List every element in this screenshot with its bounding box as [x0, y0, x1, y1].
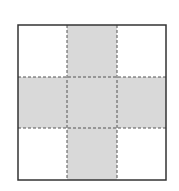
shaded-cell	[67, 77, 117, 128]
empty-cell	[117, 25, 166, 77]
empty-cell	[117, 128, 166, 180]
grid-cells	[18, 25, 166, 180]
shaded-cell	[67, 128, 117, 180]
cross-grid-diagram	[0, 0, 179, 191]
shaded-cell	[117, 77, 166, 128]
empty-cell	[18, 25, 67, 77]
shaded-cell	[67, 25, 117, 77]
shaded-cell	[18, 77, 67, 128]
empty-cell	[18, 128, 67, 180]
